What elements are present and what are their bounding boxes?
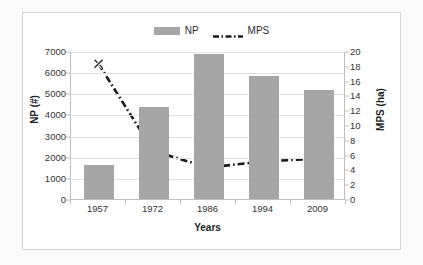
x-axis-ticklabels: 19571972198619942009 (70, 204, 345, 220)
x-tick-1986: 1986 (197, 204, 218, 214)
y-right-tickmark (345, 140, 349, 141)
y-right-tickmark (345, 81, 349, 82)
y-right-tickmark (345, 185, 349, 186)
chart-figure: NP MPS 01000200030004000500060007000 024… (0, 0, 423, 265)
y-left-tickmark (66, 52, 70, 53)
x-tick-1972: 1972 (142, 204, 163, 214)
x-tickmark (70, 200, 71, 204)
y-right-tickmark (345, 170, 349, 171)
y-left-tick-2000: 2000 (30, 153, 66, 163)
x-tickmark (180, 200, 181, 204)
y-left-tickmark (66, 157, 70, 158)
y-right-tickmark (345, 96, 349, 97)
y-axis-left-title: NP (#) (29, 70, 40, 150)
y-right-tick-6: 6 (350, 151, 380, 161)
y-right-tickmark (345, 126, 349, 127)
y-right-tickmark (345, 66, 349, 67)
x-tickmark (345, 200, 346, 204)
y-right-tickmark (345, 52, 349, 53)
bar-2009 (304, 90, 334, 199)
x-tick-1957: 1957 (87, 204, 108, 214)
x-tick-2009: 2009 (307, 204, 328, 214)
y-right-tick-20: 20 (350, 47, 380, 57)
x-tickmark (125, 200, 126, 204)
chart-plot-wrapper: 01000200030004000500060007000 0246810121… (22, 12, 401, 250)
y-right-tickmark (345, 155, 349, 156)
x-tick-1994: 1994 (252, 204, 273, 214)
x-tickmark (290, 200, 291, 204)
bar-1986 (194, 54, 224, 199)
bar-1994 (249, 76, 279, 199)
y-left-tickmark (66, 178, 70, 179)
y-left-tickmark (66, 115, 70, 116)
y-right-tick-2: 2 (350, 180, 380, 190)
y-left-tickmark (66, 136, 70, 137)
bar-1972 (139, 107, 169, 199)
bar-1957 (84, 165, 114, 199)
y-right-tick-4: 4 (350, 166, 380, 176)
y-left-tick-0: 0 (30, 195, 66, 205)
y-axis-right-title: MPS (ha) (375, 70, 386, 150)
y-left-tick-7000: 7000 (30, 47, 66, 57)
y-right-tick-0: 0 (350, 195, 380, 205)
y-left-tickmark (66, 94, 70, 95)
plot-area (70, 52, 345, 200)
y-left-tick-1000: 1000 (30, 174, 66, 184)
x-axis-title: Years (70, 222, 345, 233)
y-left-tickmark (66, 73, 70, 74)
gridline (71, 52, 344, 53)
mps-marker-1957 (95, 60, 103, 68)
x-tickmark (235, 200, 236, 204)
y-right-tickmark (345, 111, 349, 112)
